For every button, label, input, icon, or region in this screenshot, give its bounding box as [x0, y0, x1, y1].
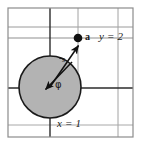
s-label: s: [62, 56, 65, 64]
x-equals-label: x = 1: [57, 118, 81, 129]
geometry-figure: a y = 2 x = 1 φ s: [0, 0, 141, 144]
point-a-label: a: [85, 32, 90, 42]
phi-label: φ: [55, 80, 62, 90]
y-equals-label: y = 2: [99, 31, 123, 42]
point-a-dot: [74, 34, 83, 43]
